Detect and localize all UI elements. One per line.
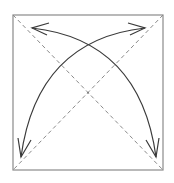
arrowhead-bottom-left-icon — [18, 138, 31, 157]
diagram-canvas — [0, 0, 174, 183]
arc-top-left-to-bottom-right — [32, 28, 156, 157]
diagram-svg — [0, 0, 174, 183]
center-point — [87, 92, 89, 94]
arrowhead-bottom-right-icon — [146, 138, 159, 157]
arc-top-right-to-bottom-left — [21, 28, 145, 157]
